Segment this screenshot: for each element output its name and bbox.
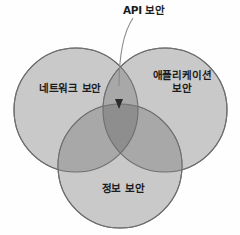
venn-diagram-canvas: API 보안 네트워크 보안 애플리케이션 보안 정보 보안 xyxy=(0,0,240,235)
venn-diagram-graphic xyxy=(0,0,240,235)
